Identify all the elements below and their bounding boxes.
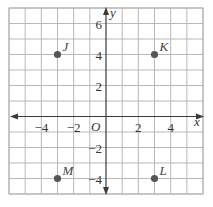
y-tick-label: 6 xyxy=(96,17,103,32)
point-marker-icon xyxy=(54,51,61,58)
y-tick-label: 4 xyxy=(96,48,103,63)
point-marker-icon xyxy=(151,175,158,182)
point-label: L xyxy=(159,163,167,178)
y-axis-label: y xyxy=(108,5,116,20)
point-m: M xyxy=(54,163,75,183)
x-axis-label: x xyxy=(193,114,200,129)
origin-label: O xyxy=(91,119,101,134)
coordinate-plane: −4−224642−2−4 JKLM x y O xyxy=(0,0,213,207)
point-label: M xyxy=(62,163,75,178)
x-tick-label: 2 xyxy=(135,120,142,135)
y-tick-label: −4 xyxy=(88,172,102,187)
point-marker-icon xyxy=(151,51,158,58)
point-label: K xyxy=(159,39,170,54)
points: JKLM xyxy=(54,39,170,183)
x-axis-left-arrow-icon xyxy=(10,114,18,120)
x-tick-label: −2 xyxy=(67,120,81,135)
y-tick-label: −2 xyxy=(88,141,102,156)
x-tick-label: 4 xyxy=(167,120,174,135)
point-label: J xyxy=(63,39,70,54)
point-j: J xyxy=(54,39,70,59)
point-l: L xyxy=(151,163,167,183)
point-marker-icon xyxy=(54,175,61,182)
y-tick-label: 2 xyxy=(96,79,103,94)
point-k: K xyxy=(151,39,170,59)
x-tick-label: −4 xyxy=(34,120,48,135)
